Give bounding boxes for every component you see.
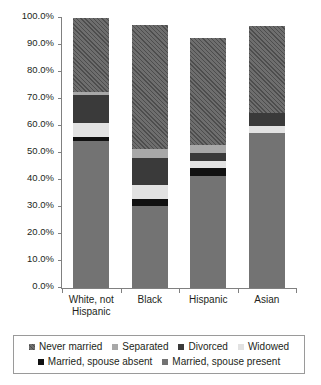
y-axis-tick-mark bbox=[58, 125, 62, 126]
legend-item-label: Separated bbox=[122, 341, 168, 353]
bar-segment-married-spouse-absent bbox=[73, 137, 109, 141]
bar-segment-married-spouse-absent bbox=[132, 199, 168, 206]
bar-segment-never-married bbox=[190, 38, 226, 145]
y-axis-tick-mark bbox=[58, 179, 62, 180]
y-axis-tick-mark bbox=[58, 206, 62, 207]
x-axis-category-label-line: White, not bbox=[62, 294, 121, 306]
legend-row: Married, spouse absentMarried, spouse pr… bbox=[20, 356, 298, 368]
legend-item-label: Widowed bbox=[248, 341, 289, 353]
y-axis-tick-label: 70.0% bbox=[27, 92, 54, 102]
bar-segment-married-spouse-present bbox=[249, 133, 285, 288]
y-axis-tick-label: 60.0% bbox=[27, 119, 54, 129]
legend-item-label: Married, spouse present bbox=[172, 356, 280, 368]
y-axis-tick-label: 0.0% bbox=[32, 281, 54, 291]
y-axis-tick-label: 80.0% bbox=[27, 65, 54, 75]
bar-segment-separated bbox=[73, 92, 109, 95]
y-axis-tick-label: 20.0% bbox=[27, 227, 54, 237]
bar-segment-divorced bbox=[132, 158, 168, 185]
y-axis-tick-mark bbox=[58, 287, 62, 288]
bar-segment-widowed bbox=[249, 126, 285, 133]
married-absent-swatch bbox=[38, 359, 44, 365]
plot-area: 0.0%10.0%20.0%30.0%40.0%50.0%60.0%70.0%8… bbox=[62, 18, 296, 288]
x-axis-tick-mark bbox=[238, 289, 239, 293]
legend-row: Never marriedSeparatedDivorcedWidowed bbox=[20, 341, 298, 353]
x-axis-category-label: White, notHispanic bbox=[62, 294, 121, 317]
legend-item[interactable]: Married, spouse absent bbox=[38, 356, 153, 368]
x-axis-category-label: Asian bbox=[238, 294, 297, 306]
bar-segment-widowed bbox=[132, 185, 168, 199]
bar-segment-married-spouse-present bbox=[132, 206, 168, 288]
legend-item-label: Married, spouse absent bbox=[48, 356, 153, 368]
y-axis-tick-label: 40.0% bbox=[27, 173, 54, 183]
bar-black bbox=[132, 18, 168, 288]
bar-segment-separated bbox=[132, 149, 168, 158]
legend-item[interactable]: Separated bbox=[112, 341, 168, 353]
stacked-bar-chart: 0.0%10.0%20.0%30.0%40.0%50.0%60.0%70.0%8… bbox=[0, 0, 321, 385]
y-axis-tick-mark bbox=[58, 44, 62, 45]
x-axis-category-label: Black bbox=[121, 294, 180, 306]
y-axis-tick-mark bbox=[58, 98, 62, 99]
bar-asian bbox=[249, 18, 285, 288]
x-axis-tick-mark bbox=[296, 289, 297, 293]
legend-item[interactable]: Widowed bbox=[238, 341, 289, 353]
x-axis-category-label-line: Asian bbox=[238, 294, 297, 306]
separated-swatch bbox=[112, 344, 118, 350]
bar-segment-widowed bbox=[73, 123, 109, 137]
bar-segment-married-spouse-absent bbox=[190, 168, 226, 176]
bar-segment-widowed bbox=[190, 161, 226, 168]
y-axis-tick-label: 90.0% bbox=[27, 38, 54, 48]
y-axis-tick-mark bbox=[58, 233, 62, 234]
x-axis-tick-mark bbox=[121, 289, 122, 293]
x-axis-category-label-line: Hispanic bbox=[179, 294, 238, 306]
bar-white-not-hispanic bbox=[73, 18, 109, 288]
never-married-swatch bbox=[29, 344, 35, 350]
bar-segment-married-spouse-present bbox=[73, 141, 109, 288]
y-axis-tick-mark bbox=[58, 71, 62, 72]
legend-item-label: Never married bbox=[39, 341, 102, 353]
y-axis-tick-mark bbox=[58, 152, 62, 153]
bar-segment-never-married bbox=[132, 25, 168, 149]
y-axis-tick-label: 100.0% bbox=[22, 11, 54, 21]
chart-legend: Never marriedSeparatedDivorcedWidowedMar… bbox=[13, 335, 305, 374]
y-axis-tick-label: 30.0% bbox=[27, 200, 54, 210]
y-axis-tick-mark bbox=[58, 260, 62, 261]
legend-item-label: Divorced bbox=[188, 341, 227, 353]
y-axis-tick-label: 50.0% bbox=[27, 146, 54, 156]
bar-segment-never-married bbox=[249, 26, 285, 112]
bar-segment-married-spouse-present bbox=[190, 176, 226, 288]
legend-item[interactable]: Divorced bbox=[178, 341, 227, 353]
legend-item[interactable]: Never married bbox=[29, 341, 102, 353]
legend-item[interactable]: Married, spouse present bbox=[162, 356, 280, 368]
x-axis-tick-mark bbox=[179, 289, 180, 293]
married-present-swatch bbox=[162, 359, 168, 365]
bar-hispanic bbox=[190, 18, 226, 288]
y-axis-tick-label: 10.0% bbox=[27, 254, 54, 264]
x-axis-category-label: Hispanic bbox=[179, 294, 238, 306]
widowed-swatch bbox=[238, 344, 244, 350]
bar-segment-divorced bbox=[190, 153, 226, 161]
bar-segment-divorced bbox=[249, 113, 285, 127]
bar-segment-separated bbox=[190, 145, 226, 153]
bar-segment-divorced bbox=[73, 95, 109, 123]
y-axis-tick-mark bbox=[58, 17, 62, 18]
bar-segment-never-married bbox=[73, 18, 109, 92]
x-axis-tick-mark bbox=[62, 289, 63, 293]
x-axis-category-label-line: Black bbox=[121, 294, 180, 306]
divorced-swatch bbox=[178, 344, 184, 350]
x-axis-category-label-line: Hispanic bbox=[62, 306, 121, 318]
